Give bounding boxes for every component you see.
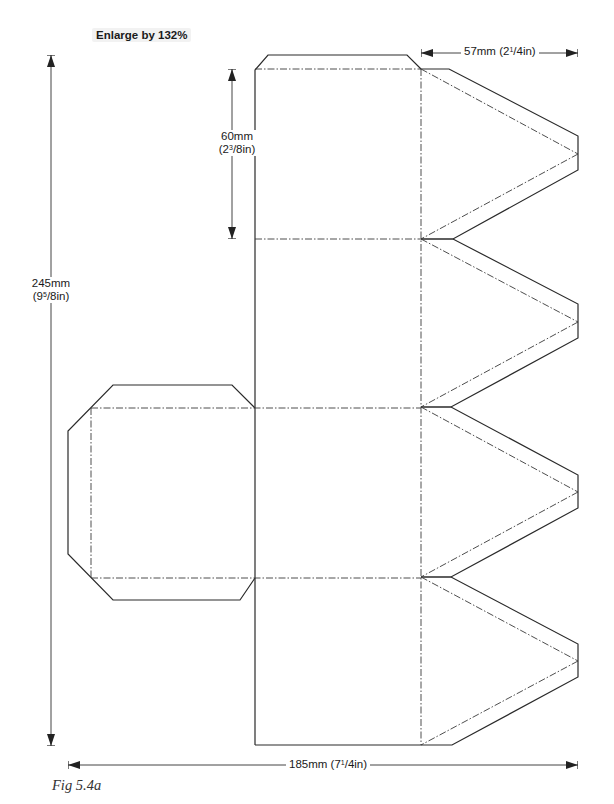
dimension-lines [51,53,578,765]
panel-height-mm: 60mm [217,130,257,143]
dimension-label-top-width: 57mm (21/4in) [461,45,539,58]
cut-line [421,407,578,577]
fold-line [421,577,578,661]
dimension-label-total-height: 245mm (95/8in) [29,277,73,303]
fold-line [421,407,578,492]
panel-height-in: (23/8in) [217,143,257,156]
dimension-label-panel-height: 60mm (23/8in) [217,130,257,156]
cut-line [421,239,578,407]
cut-lines [68,55,578,745]
fold-line [421,154,578,239]
fold-line [421,661,578,745]
fold-line [421,492,578,577]
box-net-diagram [0,0,614,804]
fold-line [421,69,578,154]
total-height-in: (95/8in) [29,290,73,303]
dimension-label-total-width: 185mm (71/4in) [286,758,370,771]
top-width-in: (21/4in) [499,45,536,57]
cut-line [255,55,421,745]
fold-line [421,239,578,322]
fold-line [421,322,578,407]
total-height-mm: 245mm [29,277,73,290]
cut-line [255,577,578,745]
cut-line [68,385,255,600]
total-width-mm: 185mm [289,758,327,770]
enlarge-instruction: Enlarge by 132% [92,28,191,42]
fold-lines [91,69,578,745]
cut-line [421,69,578,239]
total-width-in: (71/4in) [331,758,368,770]
figure-caption: Fig 5.4a [52,777,101,794]
top-width-mm: 57mm [464,45,496,57]
